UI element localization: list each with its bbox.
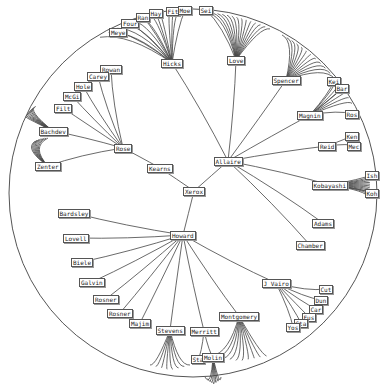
tree-edge <box>213 13 236 60</box>
tree-edge <box>111 69 123 148</box>
tree-node-filt[interactable]: Filt <box>54 104 72 113</box>
tree-edge <box>63 108 123 148</box>
tree-node-biele[interactable]: Biele <box>71 258 93 267</box>
tree-edge <box>239 316 254 358</box>
tree-node-molin[interactable]: Molin <box>202 353 224 362</box>
tree-node-zenter[interactable]: Zenter <box>35 162 61 171</box>
tree-node-rosner2[interactable]: Rosner <box>107 309 133 318</box>
tree-node-lovell[interactable]: Lovell <box>63 234 89 243</box>
tree-edge <box>228 60 236 161</box>
tree-node-hole[interactable]: Hole <box>74 82 92 91</box>
tree-node-yos[interactable]: Yos <box>286 323 301 332</box>
tree-node-adams[interactable]: Adams <box>312 219 334 228</box>
tree-node-stevens[interactable]: Stevens <box>156 326 185 335</box>
tree-node-jvairo[interactable]: J Vairo <box>262 279 291 288</box>
tree-node-rosner1[interactable]: Rosner <box>93 295 119 304</box>
tree-node-ros[interactable]: Ros <box>345 110 360 119</box>
tree-edge <box>212 316 240 356</box>
tree-node-howard[interactable]: Howard <box>170 231 196 240</box>
tree-node-xerox[interactable]: Xerox <box>183 187 205 196</box>
tree-node-bardsley[interactable]: Bardsley <box>58 209 91 218</box>
tree-node-reid[interactable]: Reid <box>318 142 336 151</box>
tree-node-moe[interactable]: Moe <box>178 6 193 15</box>
tree-edge <box>239 316 267 356</box>
tree-node-ken[interactable]: Ken <box>345 132 360 141</box>
tree-node-spencer[interactable]: Spencer <box>272 76 301 85</box>
tree-edge <box>228 161 323 223</box>
tree-node-love[interactable]: Love <box>227 56 245 65</box>
tree-node-carey[interactable]: Carey <box>87 72 109 81</box>
tree-node-allaire[interactable]: Allaire <box>214 157 243 166</box>
tree-edge <box>106 235 183 299</box>
tree-edge <box>172 10 185 63</box>
tree-edge <box>76 235 183 238</box>
tree-edge <box>183 235 204 331</box>
tree-node-bachdev[interactable]: Bachdev <box>39 127 68 136</box>
tree-node-chamber[interactable]: Chamber <box>296 241 325 250</box>
tree-edge <box>228 161 310 245</box>
tree-node-meye[interactable]: Meye <box>109 28 127 37</box>
tree-edge <box>228 80 286 161</box>
tree-node-mcgi[interactable]: McGi <box>63 92 81 101</box>
tree-node-hicks[interactable]: Hicks <box>161 59 183 68</box>
tree-edge <box>98 76 123 148</box>
tree-node-hay[interactable]: Hay <box>149 9 164 18</box>
tree-node-sei[interactable]: Sei <box>199 6 214 15</box>
tree-node-bar[interactable]: Bar <box>335 84 350 93</box>
tree-node-kearns[interactable]: Kearns <box>147 164 173 173</box>
tree-edge <box>172 63 228 161</box>
tree-node-koh[interactable]: Koh <box>365 189 380 198</box>
tree-node-mec[interactable]: Mec <box>347 142 362 151</box>
tree-edge <box>228 146 327 161</box>
tree-node-galvin[interactable]: Galvin <box>79 278 105 287</box>
tree-node-merritt[interactable]: Merritt <box>190 327 219 336</box>
tree-node-majim[interactable]: Majim <box>129 319 151 328</box>
tree-edge <box>92 235 183 282</box>
tree-node-montgomery[interactable]: Montgomery <box>219 312 259 321</box>
tree-edge <box>72 96 123 148</box>
tree-node-cut[interactable]: Cut <box>319 285 334 294</box>
tree-node-magnin[interactable]: Magnin <box>297 111 323 120</box>
hyperbolic-tree-canvas[interactable]: XeroxAllaireKearnsHowardRoseRowanCareyHo… <box>0 0 386 390</box>
tree-node-kobayashi[interactable]: Kobayashi <box>312 181 349 190</box>
tree-node-rose[interactable]: Rose <box>114 144 132 153</box>
tree-edge <box>183 235 276 283</box>
tree-edge <box>183 191 194 235</box>
tree-node-ish[interactable]: Ish <box>365 171 380 180</box>
tree-edge <box>236 20 246 60</box>
tree-edge <box>161 330 170 368</box>
tree-node-dun[interactable]: Dun <box>314 296 329 305</box>
